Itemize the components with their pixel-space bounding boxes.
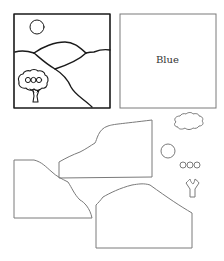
hill-piece-left[interactable]	[14, 160, 92, 218]
scene-card	[14, 14, 110, 108]
trunk-fork	[190, 179, 195, 184]
blank-card-label: Blue	[156, 54, 179, 65]
fruit-icon	[25, 77, 30, 82]
hill-right-outline	[86, 50, 110, 53]
fruit-icon	[31, 77, 36, 82]
sun-circle-piece[interactable]	[161, 144, 175, 158]
hill-piece-lower[interactable]	[96, 184, 192, 248]
cutout-pieces	[14, 113, 203, 249]
valley-line	[55, 53, 86, 69]
cloud-piece[interactable]	[175, 113, 203, 130]
activity-sheet	[0, 0, 224, 261]
fruit-circle-piece[interactable]	[194, 162, 200, 168]
fruit-icon	[36, 77, 41, 82]
foreground-hill	[34, 53, 92, 107]
sun-icon	[30, 20, 44, 34]
hill-piece-upper[interactable]	[59, 120, 152, 178]
fruit-circle-piece[interactable]	[187, 162, 193, 168]
scene-frame	[14, 14, 110, 108]
horizon-left	[15, 51, 34, 53]
fruit-circle-piece[interactable]	[180, 162, 186, 168]
tree-trunk-piece[interactable]	[186, 179, 199, 197]
hill-back-outline	[34, 42, 86, 53]
tree-canopy-icon	[18, 70, 48, 91]
